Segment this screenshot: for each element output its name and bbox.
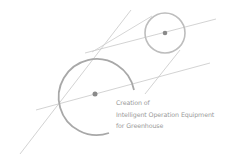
- diagonal-line: [20, 10, 131, 154]
- logo-caption: Creation of Intelligent Operation Equipm…: [116, 97, 214, 132]
- caption-line-1: Creation of: [116, 97, 214, 109]
- caption-line-2: Intelligent Operation Equipment: [116, 109, 214, 121]
- small-circle-dot: [163, 31, 168, 36]
- tangent-line-bottom: [145, 50, 180, 94]
- geometric-circles-logo-icon: [0, 0, 246, 160]
- large-circle-dot: [93, 92, 98, 97]
- caption-line-3: for Greenhouse: [116, 120, 214, 132]
